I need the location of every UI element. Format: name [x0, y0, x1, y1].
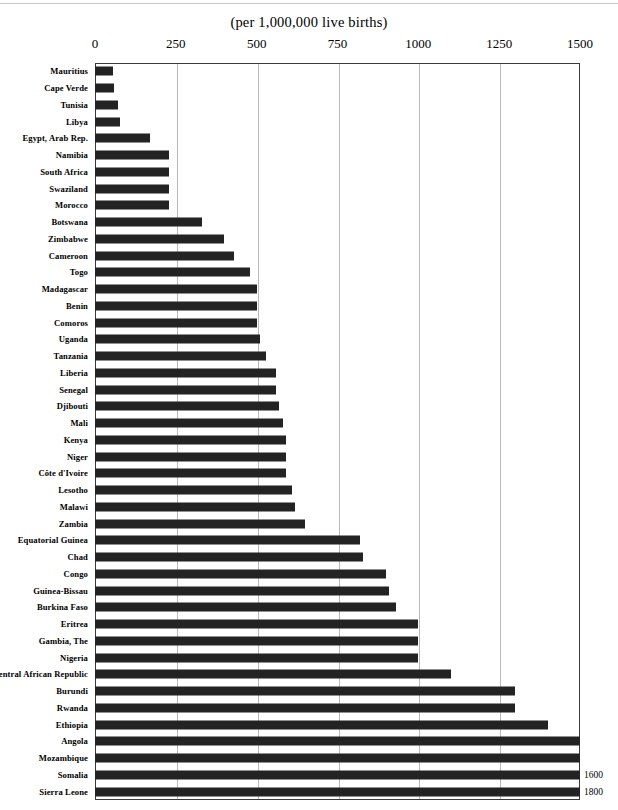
category-label: Djibouti	[57, 401, 88, 411]
bar-row: Namibia	[0, 147, 618, 164]
bar-row: Eritrea	[0, 616, 618, 633]
category-label: Malawi	[60, 502, 88, 512]
bar-row: Zimbabwe	[0, 231, 618, 248]
bar-row: Tanzania	[0, 348, 618, 365]
category-label: Burkina Faso	[37, 602, 88, 612]
category-label: Uganda	[59, 334, 88, 344]
bar-row: Mauritius	[0, 63, 618, 80]
bar-row: Guinea-Bissau	[0, 582, 618, 599]
maternal-mortality-bar-chart: (per 1,000,000 live births) 025050075010…	[0, 0, 618, 810]
bar	[95, 636, 418, 645]
bar	[95, 435, 286, 444]
bar-row: Malawi	[0, 499, 618, 516]
category-label: Tunisia	[60, 100, 88, 110]
bar-row: Ethiopia	[0, 716, 618, 733]
bar-row: Kenya	[0, 432, 618, 449]
bar	[95, 301, 257, 310]
bar	[95, 502, 295, 511]
category-label: Liberia	[60, 368, 88, 378]
category-label: Kenya	[64, 435, 88, 445]
bar	[95, 536, 360, 545]
bar	[95, 653, 418, 662]
bar	[95, 553, 363, 562]
bar-row: Mali	[0, 415, 618, 432]
bar-row: Angola	[0, 733, 618, 750]
bar	[95, 184, 169, 193]
bar	[95, 318, 257, 327]
bar	[95, 737, 580, 746]
category-label: Morocco	[55, 200, 88, 210]
bar-row: Côte d'Ivoire	[0, 465, 618, 482]
bar-row: Mozambique	[0, 750, 618, 767]
bar-rows: MauritiusCape VerdeTunisiaLibyaEgypt, Ar…	[0, 63, 618, 800]
bar-row: Comoros	[0, 314, 618, 331]
bar-row: Somalia1600	[0, 767, 618, 784]
bar-row: Djibouti	[0, 398, 618, 415]
bar	[95, 117, 120, 126]
category-label: Eritrea	[61, 619, 88, 629]
bar	[95, 234, 224, 243]
bar-row: Libya	[0, 113, 618, 130]
category-label: Swaziland	[49, 184, 88, 194]
bar	[95, 486, 292, 495]
category-label: Libya	[66, 117, 88, 127]
category-label: Côte d'Ivoire	[38, 468, 88, 478]
bar-row: Cape Verde	[0, 80, 618, 97]
category-label: Cameroon	[49, 251, 88, 261]
category-label: Madagascar	[42, 284, 88, 294]
category-label: Mozambique	[39, 753, 88, 763]
bar-row: Equatorial Guinea	[0, 532, 618, 549]
x-tick-label-1250: 1250	[486, 36, 512, 52]
bar	[95, 352, 266, 361]
category-label: Congo	[64, 569, 88, 579]
bar	[95, 67, 113, 76]
bar	[95, 151, 169, 160]
bar	[95, 419, 283, 428]
category-label: Sierra Leone	[39, 787, 88, 797]
bar	[95, 703, 515, 712]
bar	[95, 402, 279, 411]
x-tick-label-1500: 1500	[567, 36, 593, 52]
bar-row: Benin	[0, 298, 618, 315]
category-label: Zambia	[59, 519, 88, 529]
category-label: South Africa	[40, 167, 88, 177]
bar-row: Rwanda	[0, 700, 618, 717]
bar	[95, 218, 202, 227]
bar-row: Sierra Leone1800	[0, 783, 618, 800]
bar-row: Senegal	[0, 381, 618, 398]
category-label: Cape Verde	[44, 83, 88, 93]
bar	[95, 368, 276, 377]
bar-row: Nigeria	[0, 649, 618, 666]
category-label: Mali	[70, 418, 88, 428]
bar-row: Lesotho	[0, 482, 618, 499]
x-tick-label-250: 250	[166, 36, 186, 52]
bar-row: Burkina Faso	[0, 599, 618, 616]
x-tick-label-750: 750	[328, 36, 348, 52]
bar	[95, 100, 118, 109]
bar	[95, 201, 169, 210]
x-tick-label-1000: 1000	[405, 36, 431, 52]
category-label: Senegal	[59, 385, 88, 395]
bar	[95, 586, 389, 595]
bar	[95, 285, 257, 294]
category-label: Lesotho	[58, 485, 88, 495]
category-label: Gambia, The	[39, 636, 88, 646]
bar	[95, 268, 250, 277]
category-label: Burundi	[56, 686, 88, 696]
bar	[95, 569, 386, 578]
bar-row: Gambia, The	[0, 633, 618, 650]
bar	[95, 134, 150, 143]
bar-row: Botswana	[0, 214, 618, 231]
bar-row: Liberia	[0, 365, 618, 382]
bar-value-label: 1600	[584, 770, 603, 780]
bar-row: Egypt, Arab Rep.	[0, 130, 618, 147]
bar	[95, 770, 580, 779]
bar	[95, 385, 276, 394]
bar	[95, 452, 286, 461]
category-label: Mauritius	[50, 66, 88, 76]
category-label: Rwanda	[57, 703, 88, 713]
bar	[95, 335, 260, 344]
category-label: Angola	[61, 736, 88, 746]
category-label: Egypt, Arab Rep.	[22, 133, 88, 143]
bar-row: Niger	[0, 448, 618, 465]
